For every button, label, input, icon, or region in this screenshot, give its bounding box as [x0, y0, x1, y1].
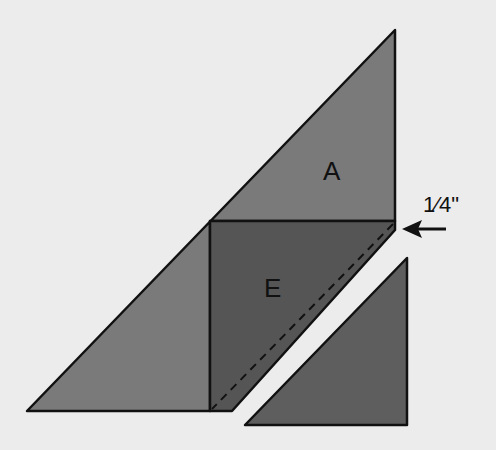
quilt-diagram: A E 1⁄4" — [0, 0, 496, 450]
arrow-left-icon — [402, 220, 446, 238]
label-a: A — [323, 156, 341, 186]
label-e: E — [264, 273, 281, 303]
measurement-label: 1⁄4" — [423, 192, 459, 217]
